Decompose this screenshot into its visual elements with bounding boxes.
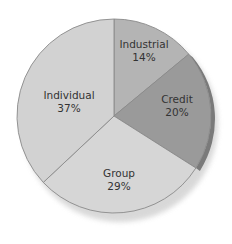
- pie-chart: Industrial 14% Credit 20% Individual 37%…: [0, 0, 232, 244]
- slice-label-credit: Credit: [161, 93, 193, 105]
- slice-value-credit: 20%: [165, 106, 188, 118]
- slice-label-individual: Individual: [43, 89, 94, 101]
- slice-value-individual: 37%: [57, 102, 80, 114]
- slice-value-group: 29%: [107, 180, 130, 192]
- slice-label-industrial: Industrial: [119, 38, 168, 50]
- slice-label-group: Group: [103, 167, 135, 179]
- slice-value-industrial: 14%: [132, 51, 155, 63]
